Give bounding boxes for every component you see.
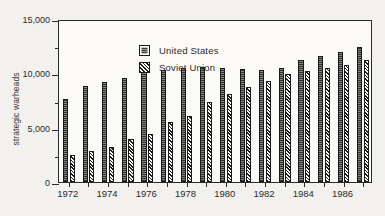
bar-soviet-union: [285, 74, 290, 182]
x-axis-tick: [304, 182, 305, 187]
bar-soviet-union: [89, 151, 94, 183]
bar-united-states: [240, 69, 245, 182]
bar-soviet-union: [364, 60, 369, 182]
y-axis-tick: [55, 48, 59, 49]
legend-label-united-states: United States: [159, 45, 219, 56]
legend-item-united-states: United States: [139, 43, 269, 57]
y-axis-tick: [55, 103, 59, 104]
x-axis-tick: [147, 182, 148, 187]
bar-united-states: [200, 67, 205, 182]
bar-soviet-union: [70, 155, 75, 182]
legend-swatch-soviet-union: [139, 62, 150, 73]
legend-swatch-united-states: [139, 45, 150, 56]
y-axis-tick: [52, 21, 59, 22]
bar-soviet-union: [305, 71, 310, 182]
bar-united-states: [63, 99, 68, 182]
legend-label-soviet-union: Soviet Union: [159, 62, 215, 73]
x-axis-tick-label: 1974: [96, 188, 117, 199]
y-axis-tick: [52, 130, 59, 131]
bar-soviet-union: [344, 65, 349, 182]
x-axis-tick: [363, 182, 364, 187]
bar-soviet-union: [187, 116, 192, 182]
bar-united-states: [298, 60, 303, 182]
x-axis-tick-label: 1984: [293, 188, 314, 199]
y-axis-tick-label: 0: [45, 178, 50, 188]
x-axis-tick-label: 1978: [175, 188, 196, 199]
legend-item-soviet-union: Soviet Union: [139, 60, 269, 74]
bar-united-states: [141, 71, 146, 182]
bar-soviet-union: [148, 134, 153, 182]
x-axis-tick: [344, 182, 345, 187]
x-axis-tick: [88, 182, 89, 187]
x-axis-tick: [324, 182, 325, 187]
x-axis-tick: [128, 182, 129, 187]
bar-united-states: [83, 86, 88, 182]
x-axis-tick-label: 1982: [253, 188, 274, 199]
bar-united-states: [279, 68, 284, 182]
bar-united-states: [259, 70, 264, 182]
x-axis-tick-labels: 19721974197619781980198219841986: [58, 188, 372, 206]
bar-united-states: [161, 70, 166, 182]
x-axis-tick: [206, 182, 207, 187]
x-axis-tick: [226, 182, 227, 187]
bar-soviet-union: [325, 68, 330, 182]
y-axis-tick: [55, 157, 59, 158]
x-axis-tick: [108, 182, 109, 187]
bar-soviet-union: [227, 94, 232, 182]
x-axis-tick: [285, 182, 286, 187]
bar-united-states: [318, 56, 323, 182]
bar-soviet-union: [207, 102, 212, 182]
bar-soviet-union: [266, 81, 271, 182]
bar-soviet-union: [246, 87, 251, 182]
bar-soviet-union: [109, 147, 114, 182]
bar-united-states: [122, 78, 127, 182]
bar-united-states: [338, 52, 343, 182]
y-axis-tick: [52, 184, 59, 185]
x-axis-tick: [187, 182, 188, 187]
x-axis-tick-label: 1986: [332, 188, 353, 199]
x-axis-tick: [167, 182, 168, 187]
legend: United States Soviet Union: [139, 43, 269, 77]
y-axis-tick-label: 10,000: [22, 69, 50, 79]
x-axis-tick-label: 1976: [136, 188, 157, 199]
bar-united-states: [181, 68, 186, 182]
bar-soviet-union: [128, 139, 133, 182]
x-axis-tick: [265, 182, 266, 187]
bar-united-states: [102, 82, 107, 182]
y-axis-tick-labels: 05,00010,00015,000: [0, 20, 54, 183]
bar-chart: strategic warheads 05,00010,00015,000 Un…: [0, 0, 385, 216]
x-axis-tick-label: 1972: [57, 188, 78, 199]
y-axis-tick-label: 15,000: [22, 15, 50, 25]
x-axis-tick: [245, 182, 246, 187]
plot-area: United States Soviet Union: [58, 20, 372, 183]
bar-soviet-union: [168, 122, 173, 182]
bar-united-states: [357, 47, 362, 182]
y-axis-tick-label: 5,000: [27, 124, 50, 134]
y-axis-tick: [52, 75, 59, 76]
x-axis-tick: [69, 182, 70, 187]
bar-united-states: [220, 68, 225, 182]
x-axis-tick-label: 1980: [214, 188, 235, 199]
